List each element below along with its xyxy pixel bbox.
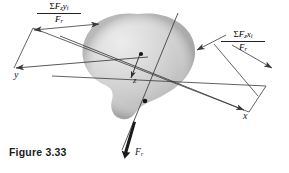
resultant-force-label: Fr <box>135 148 143 158</box>
y-dimension-denominator: Fr <box>37 14 81 25</box>
y-axis-label: y <box>14 70 18 80</box>
y-dimension-numerator: ΣFzyi <box>37 2 81 14</box>
x-axis-label: x <box>243 111 247 121</box>
resultant-force-arrow <box>122 121 136 158</box>
centroid-dot-top <box>139 52 143 56</box>
centroid-dot-bottom <box>143 99 148 104</box>
x-dimension-denominator: Fr <box>221 42 265 53</box>
projection-line-left <box>14 28 33 68</box>
z-axis-label: z <box>133 76 137 85</box>
surface-blob <box>83 13 196 119</box>
figure-3-33: ΣFzyi Fr ΣFzxi Fr y x z Fr Figure 3.33 <box>0 0 289 173</box>
y-centroid-dimension-label: ΣFzyi Fr <box>37 2 81 25</box>
projection-line-yedge <box>249 86 266 112</box>
x-dimension-numerator: ΣFzxi <box>221 30 265 42</box>
x-centroid-dimension-label: ΣFzxi Fr <box>221 30 265 53</box>
figure-caption: Figure 3.33 <box>9 146 67 158</box>
